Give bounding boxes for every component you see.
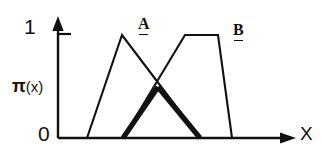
x-axis-label: X (300, 124, 313, 143)
set-label-b-underline-icon (234, 40, 243, 41)
set-label-b: B (233, 22, 244, 41)
y-axis-label-symbol: π (12, 76, 26, 96)
x-axis (58, 132, 296, 143)
set-label-a: A (138, 16, 150, 35)
membership-curve-a (87, 35, 200, 138)
y-axis-label: π(x) (12, 77, 43, 95)
set-label-a-underline-icon (139, 34, 148, 35)
intersection-emphasis-a-falling (158, 87, 200, 138)
membership-curve-b (123, 35, 232, 138)
intersection-emphasis-b-rising (123, 87, 158, 138)
fuzzy-sets-figure: 1 0 π(x) X A B (0, 0, 322, 157)
y-axis-label-argument: (x) (26, 78, 44, 95)
set-label-b-letter: B (233, 22, 244, 38)
y-tick-label-zero: 0 (38, 123, 50, 144)
set-label-a-letter: A (138, 16, 150, 32)
y-tick-label-one: 1 (24, 16, 36, 37)
